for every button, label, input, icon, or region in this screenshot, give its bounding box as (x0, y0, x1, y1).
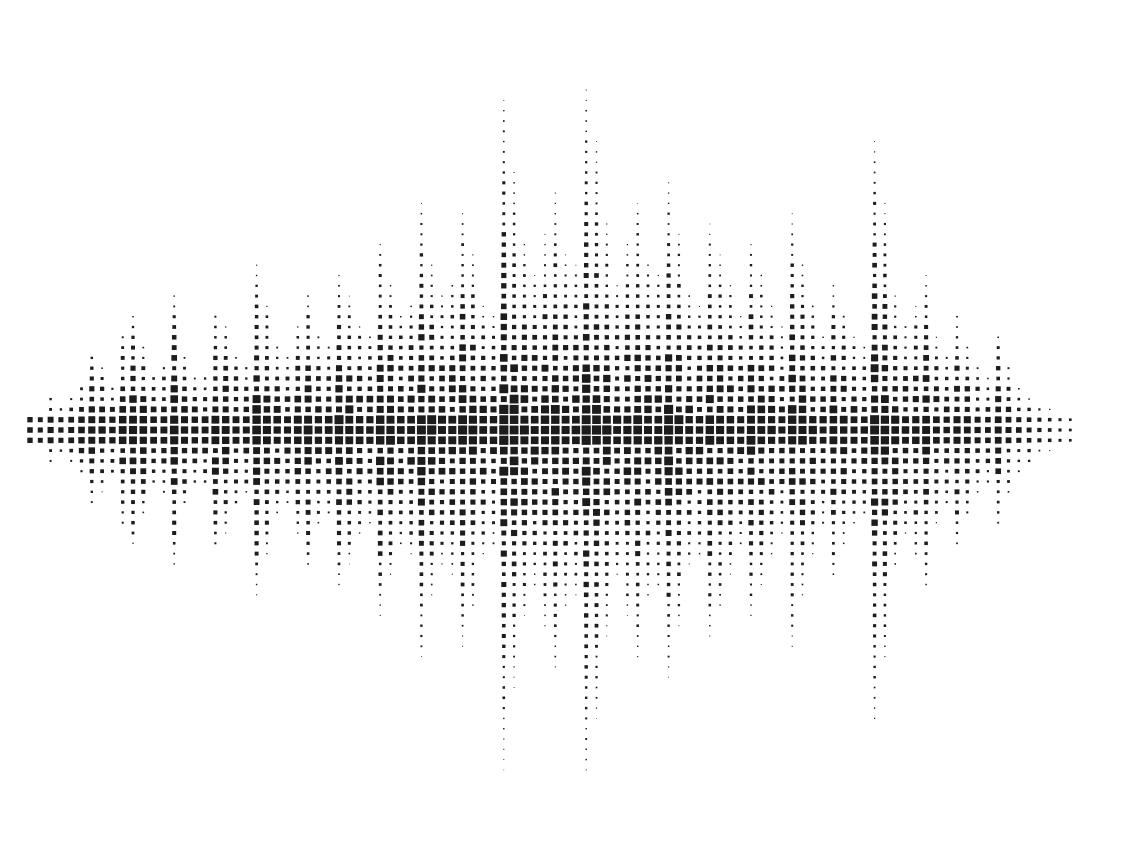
canvas-stage (0, 0, 1128, 854)
halftone-waveform-canvas (0, 0, 1128, 854)
